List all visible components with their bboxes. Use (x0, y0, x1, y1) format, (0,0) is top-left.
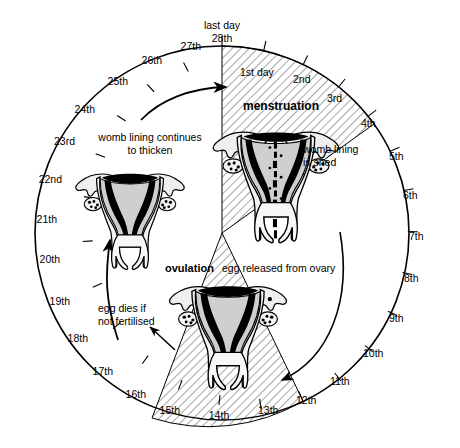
day-label-9: 9th (389, 312, 404, 324)
last-day-label: last day (204, 19, 241, 31)
day-label-14: 14th (209, 409, 230, 421)
day-label-12: 12th (296, 394, 317, 406)
day-label-3: 3rd (327, 92, 342, 104)
label-menstruation: menstruation (243, 99, 319, 113)
label-thicken-2: to thicken (128, 144, 173, 156)
arrow-to-egg-dies (150, 327, 175, 350)
day-label-26: 26th (142, 54, 163, 66)
label-ovulation-bold: ovulation (165, 262, 214, 274)
day-label-7: 7th (409, 230, 424, 242)
day-label-6: 6th (403, 189, 418, 201)
label-ovulation-rest: egg released from ovary (222, 262, 336, 274)
day-label-24: 24th (75, 103, 96, 115)
day-label-2: 2nd (293, 73, 311, 85)
day-label-17: 17th (93, 365, 114, 377)
day-label-19: 19th (50, 295, 71, 307)
menstrual-cycle-diagram: 1st day 2nd 3rd 4th 5th 6th 7th 8th 9th … (0, 0, 460, 448)
day-label-13: 13th (258, 404, 279, 416)
day-label-27: 27th (181, 40, 202, 52)
released-egg (268, 297, 272, 301)
day-label-4: 4th (361, 117, 376, 129)
day-label-8: 8th (404, 272, 419, 284)
label-thicken-1: womb lining continues (97, 131, 201, 143)
day-label-23: 23rd (54, 135, 75, 147)
day-label-1: 1st day (240, 66, 275, 78)
day-label-25: 25th (108, 75, 129, 87)
label-womb-lining-shed-2: is shed (303, 156, 336, 168)
label-womb-lining-shed-1: womb lining (302, 143, 359, 155)
day-label-28: 28th (212, 32, 233, 44)
label-egg-dies-2: not fertilised (98, 315, 155, 327)
day-label-21: 21th (37, 213, 58, 225)
day-label-16: 16th (126, 388, 147, 400)
uterus-thickening (76, 174, 184, 270)
day-label-18: 18th (68, 332, 89, 344)
day-label-10: 10th (363, 347, 384, 359)
arrow-right-descend (282, 232, 343, 380)
day-label-5: 5th (389, 150, 404, 162)
day-label-11: 11th (330, 375, 350, 387)
label-egg-dies-1: egg dies if (98, 302, 146, 314)
day-label-22: 22nd (39, 173, 63, 185)
day-label-20: 20th (40, 253, 61, 265)
day-label-15: 15th (160, 404, 181, 416)
